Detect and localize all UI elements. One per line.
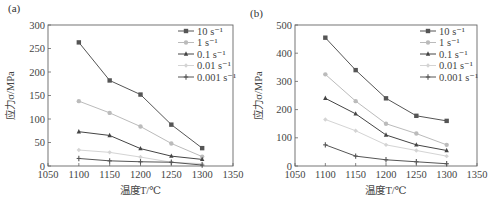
x-tick-label: 1350 <box>223 169 244 180</box>
panel-label: (a) <box>8 2 21 15</box>
x-tick-label: 1300 <box>436 169 457 180</box>
legend-label: 1 s⁻¹ <box>197 37 218 48</box>
data-point-marker <box>414 114 418 118</box>
x-tick-label: 1150 <box>99 169 120 180</box>
y-tick-label: 250 <box>29 43 45 54</box>
data-point-marker <box>323 72 327 76</box>
legend-item: 0.001 s⁻¹ <box>178 72 236 83</box>
data-point-marker <box>444 119 448 123</box>
x-tick-label: 1350 <box>467 169 488 180</box>
x-tick-label: 1100 <box>315 169 336 180</box>
x-tick-label: 1200 <box>130 169 151 180</box>
data-point-marker <box>184 40 188 44</box>
data-point-marker <box>323 117 327 121</box>
data-point-marker <box>200 146 204 150</box>
data-point-marker <box>184 29 188 33</box>
data-point-marker <box>77 148 81 152</box>
data-point-marker <box>444 143 448 147</box>
data-point-marker <box>169 122 173 126</box>
legend-item: 10 s⁻¹ <box>178 26 223 37</box>
y-tick-label: 500 <box>276 20 292 31</box>
y-tick-label: 200 <box>29 67 45 78</box>
series-line <box>323 35 449 123</box>
legend-label: 1 s⁻¹ <box>439 37 460 48</box>
data-point-marker <box>414 131 418 135</box>
data-point-marker <box>444 154 448 158</box>
x-tick-label: 1150 <box>345 169 366 180</box>
data-point-marker <box>107 150 111 154</box>
legend-label: 0.01 s⁻¹ <box>197 60 231 71</box>
legend-item: 0.1 s⁻¹ <box>178 49 226 60</box>
data-point-marker <box>323 35 327 39</box>
data-point-marker <box>353 68 357 72</box>
data-point-marker <box>107 158 111 163</box>
data-point-marker <box>184 63 188 67</box>
data-point-marker <box>426 29 430 33</box>
data-point-marker <box>107 111 111 115</box>
data-point-marker <box>384 157 388 162</box>
data-point-marker <box>353 99 357 103</box>
x-tick-label: 1100 <box>69 169 90 180</box>
y-tick-label: 150 <box>29 90 45 101</box>
x-tick-label: 1050 <box>38 169 59 180</box>
legend-label: 0.1 s⁻¹ <box>439 49 468 60</box>
x-axis-title: 温度T/℃ <box>120 184 161 196</box>
legend-label: 0.01 s⁻¹ <box>439 60 473 71</box>
y-axis-title: 应力σ/MPa <box>252 71 264 120</box>
x-tick-label: 1250 <box>406 169 427 180</box>
data-point-marker <box>353 129 357 133</box>
figure: 0501001502002503001050110011501200125013… <box>0 0 494 211</box>
data-point-marker <box>384 96 388 100</box>
data-point-marker <box>77 129 81 133</box>
data-point-marker <box>353 153 357 158</box>
data-point-marker <box>169 160 173 165</box>
chart-panel-b: 0100200300400500105011001150120012501300… <box>250 7 488 196</box>
data-point-marker <box>107 78 111 82</box>
y-tick-label: 300 <box>276 76 292 87</box>
legend-item: 1 s⁻¹ <box>420 37 460 48</box>
x-axis-title: 温度T/℃ <box>365 184 406 196</box>
data-point-marker <box>138 159 142 164</box>
y-tick-label: 100 <box>29 114 45 125</box>
legend-item: 0.1 s⁻¹ <box>420 49 468 60</box>
legend-label: 0.1 s⁻¹ <box>197 49 226 60</box>
y-tick-label: 300 <box>29 20 45 31</box>
data-point-marker <box>77 99 81 103</box>
legend-label: 10 s⁻¹ <box>197 26 223 37</box>
x-tick-label: 1200 <box>376 169 397 180</box>
legend-label: 0.001 s⁻¹ <box>439 72 478 83</box>
data-point-marker <box>426 40 430 44</box>
chart-panel-a: 0501001502002503001050110011501200125013… <box>4 2 244 196</box>
panel-label: (b) <box>250 7 263 20</box>
legend-item: 1 s⁻¹ <box>178 37 218 48</box>
data-point-marker <box>414 148 418 152</box>
legend-item: 10 s⁻¹ <box>420 26 465 37</box>
legend-label: 10 s⁻¹ <box>439 26 465 37</box>
data-point-marker <box>77 40 81 44</box>
data-point-marker <box>184 74 188 79</box>
y-tick-label: 100 <box>276 132 292 143</box>
x-tick-label: 1250 <box>161 169 182 180</box>
legend-label: 0.001 s⁻¹ <box>197 72 236 83</box>
legend-item: 0.01 s⁻¹ <box>178 60 231 71</box>
data-point-marker <box>426 63 430 67</box>
y-tick-label: 400 <box>276 48 292 59</box>
data-point-marker <box>138 155 142 159</box>
data-point-marker <box>414 159 418 164</box>
data-point-marker <box>169 141 173 145</box>
data-point-marker <box>77 156 81 161</box>
data-point-marker <box>323 142 327 147</box>
data-point-marker <box>426 74 430 79</box>
data-point-marker <box>323 96 327 100</box>
legend-item: 0.001 s⁻¹ <box>420 72 478 83</box>
y-axis-title: 应力σ/MPa <box>4 71 16 120</box>
legend-item: 0.01 s⁻¹ <box>420 60 473 71</box>
data-point-marker <box>138 124 142 128</box>
data-point-marker <box>138 92 142 96</box>
x-tick-label: 1050 <box>285 169 306 180</box>
data-point-marker <box>384 143 388 147</box>
data-point-marker <box>384 122 388 126</box>
x-tick-label: 1300 <box>192 169 213 180</box>
y-tick-label: 50 <box>35 137 46 148</box>
y-tick-label: 200 <box>276 104 292 115</box>
